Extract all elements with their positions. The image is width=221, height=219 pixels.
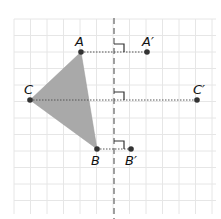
grid <box>14 19 216 214</box>
point-aprime <box>144 49 150 55</box>
label-bprime: B′ <box>125 153 137 168</box>
reflection-diagram: A A′ C C′ B B′ <box>0 0 221 219</box>
label-b: B <box>91 153 100 168</box>
point-a <box>78 49 84 55</box>
point-b <box>94 146 100 152</box>
right-angle-mark-a <box>114 44 124 52</box>
point-c <box>27 97 33 103</box>
point-cprime <box>194 97 200 103</box>
label-aprime: A′ <box>141 34 154 49</box>
label-a: A <box>74 34 84 49</box>
point-bprime <box>128 146 134 152</box>
label-c: C <box>24 82 34 97</box>
label-cprime: C′ <box>193 82 205 97</box>
right-angle-mark-b <box>114 141 124 149</box>
right-angle-mark-c <box>114 92 124 100</box>
